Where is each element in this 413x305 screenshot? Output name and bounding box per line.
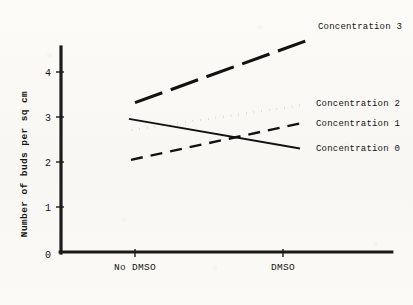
line-chart-canvas: 4 3 2 1 0 Number of buds per sq cm No DM…	[0, 0, 413, 305]
y-axis-title: Number of buds per sq cm	[19, 91, 30, 237]
y-tick-label-0: 0	[45, 250, 51, 261]
x-tick-labels: No DMSO DMSO	[114, 262, 295, 273]
series-line-concentration-0	[129, 119, 300, 149]
legend-label-concentration-3: Concentration 3	[318, 22, 402, 32]
y-tick-labels: 4 3 2 1 0	[45, 68, 51, 261]
legend-label-concentration-0: Concentration 0	[316, 144, 400, 154]
series-line-concentration-3	[135, 39, 311, 103]
y-tick-label-4: 4	[45, 68, 51, 79]
y-tick-label-3: 3	[45, 113, 51, 124]
chart-figure: 4 3 2 1 0 Number of buds per sq cm No DM…	[0, 0, 413, 305]
y-tick-label-2: 2	[45, 158, 51, 169]
x-tick-label-dmso: DMSO	[271, 262, 295, 273]
series-line-concentration-1	[131, 123, 302, 160]
x-tick-label-no-dmso: No DMSO	[114, 262, 156, 273]
series-line-concentration-2	[132, 105, 307, 131]
legend-group: Concentration 3 Concentration 2 Concentr…	[316, 22, 402, 154]
legend-label-concentration-1: Concentration 1	[316, 119, 400, 129]
y-tick-label-1: 1	[45, 203, 51, 214]
legend-label-concentration-2: Concentration 2	[316, 99, 400, 109]
